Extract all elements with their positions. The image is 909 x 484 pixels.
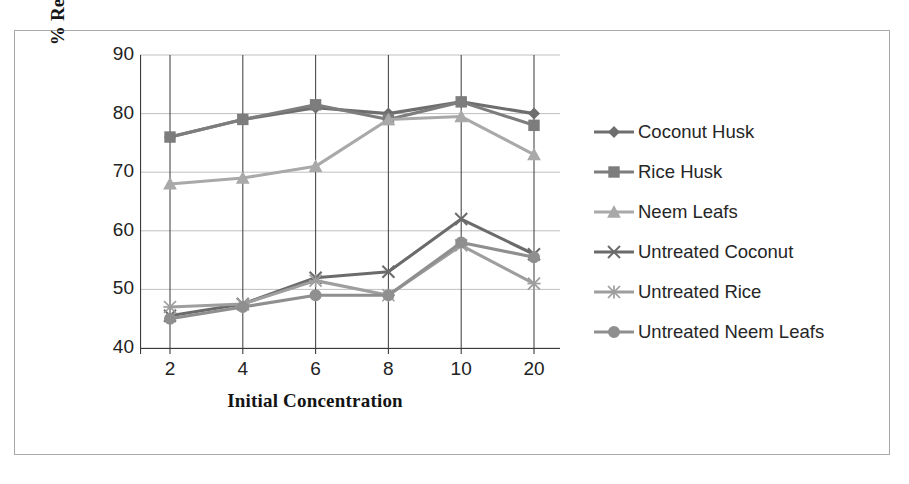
y-axis-tick-labels: 908070605040 — [84, 0, 134, 484]
y-tick-label: 70 — [88, 160, 134, 182]
legend-marker-circle-icon — [592, 323, 636, 341]
x-tick-label: 20 — [512, 358, 556, 380]
x-tick-label: 10 — [439, 358, 483, 380]
legend-item-neem-leafs[interactable]: Neem Leafs — [592, 192, 882, 232]
y-tick-label: 50 — [88, 277, 134, 299]
y-tick-label: 60 — [88, 219, 134, 241]
legend-label: Untreated Neem Leafs — [636, 321, 824, 343]
chart-legend: Coconut HuskRice HuskNeem LeafsUntreated… — [592, 112, 882, 352]
y-tick-label: 40 — [88, 336, 134, 358]
legend-item-coconut-husk[interactable]: Coconut Husk — [592, 112, 882, 152]
x-tick-label: 6 — [294, 358, 338, 380]
legend-item-untreated-rice[interactable]: Untreated Rice — [592, 272, 882, 312]
x-tick-label: 2 — [148, 358, 192, 380]
chart-svg — [140, 50, 560, 355]
legend-label: Rice Husk — [636, 161, 722, 183]
y-tick-label: 80 — [88, 102, 134, 124]
series-rice-husk — [165, 97, 539, 142]
y-axis-title: % Removal of Chromium — [44, 0, 72, 88]
series-coconut-husk — [165, 97, 539, 142]
x-axis-tick-labels: 24681020 — [140, 358, 560, 386]
legend-label: Coconut Husk — [636, 121, 754, 143]
x-axis-title: Initial Concentration — [150, 390, 480, 412]
series-untreated-neem-leafs — [165, 237, 540, 324]
legend-label: Untreated Coconut — [636, 241, 793, 263]
legend-item-rice-husk[interactable]: Rice Husk — [592, 152, 882, 192]
legend-marker-x-cross-icon — [592, 243, 636, 261]
y-tick-label: 90 — [88, 43, 134, 65]
series-neem-leafs — [164, 111, 539, 189]
legend-label: Untreated Rice — [636, 281, 761, 303]
legend-item-untreated-neem-leafs[interactable]: Untreated Neem Leafs — [592, 312, 882, 352]
x-tick-label: 4 — [221, 358, 265, 380]
legend-item-untreated-coconut[interactable]: Untreated Coconut — [592, 232, 882, 272]
legend-label: Neem Leafs — [636, 201, 738, 223]
x-tick-label: 8 — [366, 358, 410, 380]
legend-marker-diamond-icon — [592, 123, 636, 141]
plot-area — [140, 50, 560, 355]
legend-marker-square-icon — [592, 163, 636, 181]
legend-marker-triangle-icon — [592, 203, 636, 221]
legend-marker-asterisk-icon — [592, 283, 636, 301]
